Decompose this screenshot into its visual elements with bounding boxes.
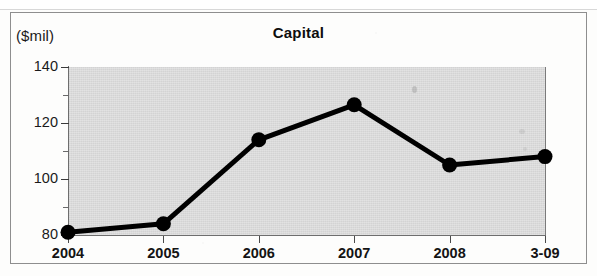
chart-screenshot: ($mil) Capital 80100120140 2004200520062… xyxy=(0,0,597,276)
data-point-marker xyxy=(347,97,362,112)
series-markers xyxy=(61,97,553,239)
series-line-chart xyxy=(0,0,597,276)
data-point-marker xyxy=(251,132,266,147)
data-point-marker xyxy=(442,158,457,173)
data-point-marker xyxy=(156,216,171,231)
data-point-marker xyxy=(61,225,76,240)
series-line-capital xyxy=(68,105,545,232)
data-point-marker xyxy=(538,149,553,164)
